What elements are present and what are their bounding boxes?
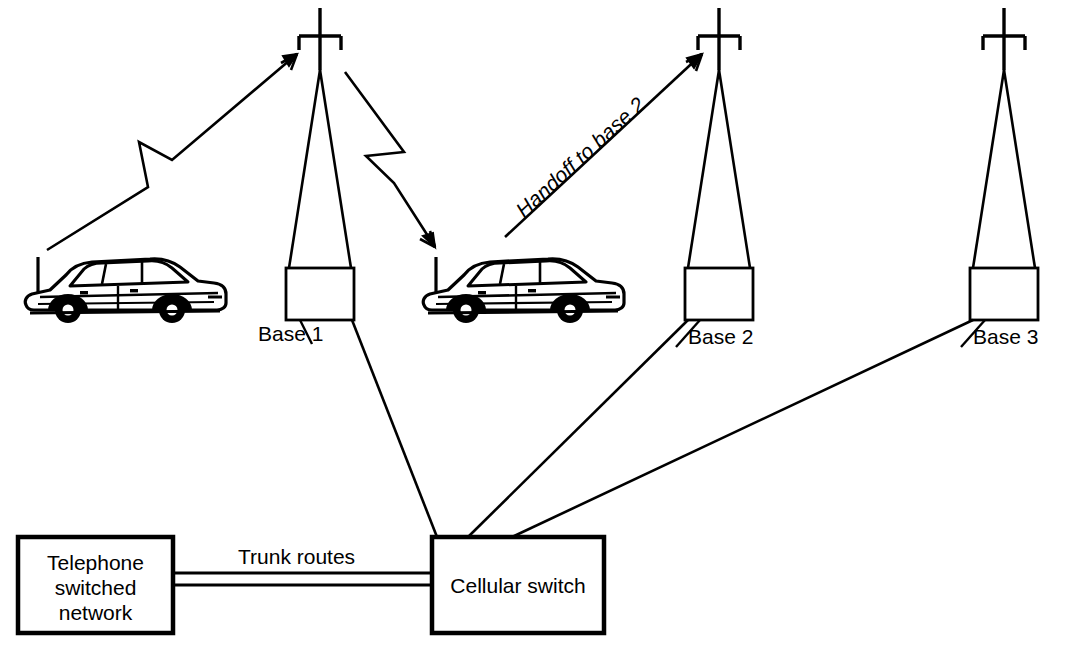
tower-leg-left [973,70,1004,268]
base-station-hut-3 [970,268,1038,320]
tower-leg-left [289,70,320,268]
telephone-network-label-line1: Telephone [18,551,173,576]
diagram-canvas: Base 1 Base 2 Base 3 Trunk routes Teleph… [0,0,1065,663]
cellular-switch-label: Cellular switch [432,574,604,599]
base-label-2: Base 2 [688,325,753,350]
trunk-routes-label: Trunk routes [238,545,355,570]
base-label-3: Base 3 [973,325,1038,350]
telephone-network-label: Telephone switched network [18,551,173,625]
telephone-network-label-line3: network [18,601,173,626]
tower-leg-right [719,70,750,268]
tower-leg-left [688,70,719,268]
backhaul-line-base3 [512,320,973,537]
mobile-car-right [423,257,624,323]
tower-leg-right [1004,70,1035,268]
radio-link-car-left-to-base1 [47,54,297,250]
backhaul-line-base2 [468,320,688,537]
base-label-1: Base 1 [258,322,323,347]
base-station-hut-1 [286,268,354,320]
mobile-car-left [25,257,226,323]
backhaul-line-base1 [352,320,437,537]
radio-link-base1-to-car-right [345,72,435,247]
telephone-network-label-line2: switched [18,576,173,601]
trunk-route-lines [173,573,432,585]
tower-leg-right [320,70,351,268]
tower-base3 [970,8,1038,320]
base-station-hut-2 [685,268,753,320]
